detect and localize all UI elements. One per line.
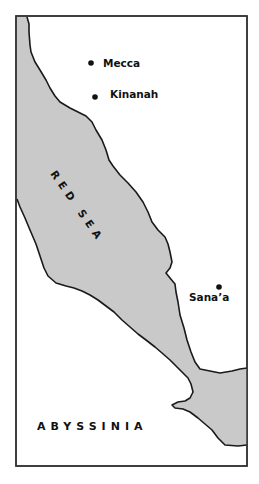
city-label-kinanah: Kinanah	[110, 88, 158, 100]
city-label-mecca: Mecca	[103, 57, 140, 69]
region-label-abyssinia: ABYSSINIA	[37, 420, 148, 433]
city-dot-icon	[88, 60, 94, 66]
city-label-sanaa: Sana’a	[189, 291, 229, 303]
map: RED SEA Mecca Kinanah Sana’a ABYSSINIA	[0, 0, 259, 484]
city-dot-icon	[92, 94, 98, 100]
city-dot-icon	[216, 284, 222, 290]
